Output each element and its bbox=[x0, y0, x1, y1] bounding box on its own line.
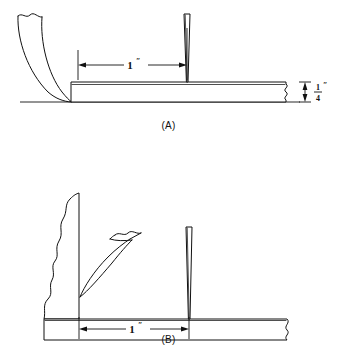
figure-b-drawing: 1 ″ bbox=[0, 179, 337, 359]
arrowhead-down-a bbox=[303, 94, 308, 102]
figure-a-caption: (A) bbox=[0, 120, 337, 131]
curved-gouge-blade-b bbox=[80, 232, 141, 297]
dimension-unit-span-a: ″ bbox=[136, 57, 140, 66]
curved-gouge-blade-a bbox=[18, 14, 71, 102]
thin-knife-blade-b bbox=[186, 227, 192, 319]
board-a bbox=[71, 82, 287, 102]
dimension-thickness-a: 1 4 ″ bbox=[299, 81, 327, 103]
arrowhead-left-a bbox=[78, 62, 86, 67]
thickness-numerator-a: 1 bbox=[316, 83, 320, 92]
figure-sheet: 1 ″ 1 4 ″ (A) bbox=[0, 0, 337, 359]
thickness-denominator-a: 4 bbox=[316, 94, 320, 103]
dimension-unit-span-b: ″ bbox=[138, 321, 142, 330]
figure-a: 1 ″ 1 4 ″ (A) bbox=[0, 0, 337, 180]
broken-vertical-wall-b bbox=[44, 193, 79, 319]
thickness-unit-a: ″ bbox=[323, 81, 327, 90]
arrowhead-up-a bbox=[303, 82, 308, 90]
figure-a-drawing: 1 ″ 1 4 ″ bbox=[0, 0, 337, 180]
dimension-label-span-a: 1 bbox=[127, 59, 133, 71]
figure-b-caption: (B) bbox=[0, 334, 337, 345]
dimension-horizontal-a: 1 ″ bbox=[78, 28, 187, 80]
figure-b: 1 ″ (B) bbox=[0, 179, 337, 359]
